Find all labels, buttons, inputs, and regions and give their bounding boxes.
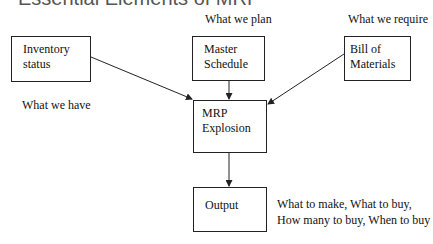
output-caption-line2: How many to buy, When to buy [277, 213, 430, 228]
master-schedule-line1: Master [204, 42, 264, 57]
inventory-line2: status [23, 57, 90, 72]
mrp-explosion-box: MRP Explosion [193, 100, 267, 153]
bom-caption: What we require [348, 12, 428, 27]
output-box: Output [193, 187, 267, 232]
bom-line1: Bill of [350, 42, 410, 57]
bill-of-materials-box: Bill of Materials [344, 36, 411, 81]
arrow-inventory-to-mrp [91, 57, 192, 99]
mrp-line2: Explosion [202, 121, 266, 136]
master-schedule-caption: What we plan [205, 12, 272, 27]
inventory-caption: What we have [22, 98, 91, 113]
inventory-status-box: Inventory status [11, 36, 91, 82]
bom-line2: Materials [350, 57, 410, 72]
master-schedule-box: Master Schedule [192, 36, 265, 81]
output-caption-line1: What to make, What to buy, [277, 197, 412, 212]
arrow-bom-to-mrp [268, 54, 344, 104]
output-label: Output [205, 198, 266, 213]
inventory-line1: Inventory [23, 42, 90, 57]
mrp-line1: MRP [202, 106, 266, 121]
master-schedule-line2: Schedule [204, 57, 264, 72]
